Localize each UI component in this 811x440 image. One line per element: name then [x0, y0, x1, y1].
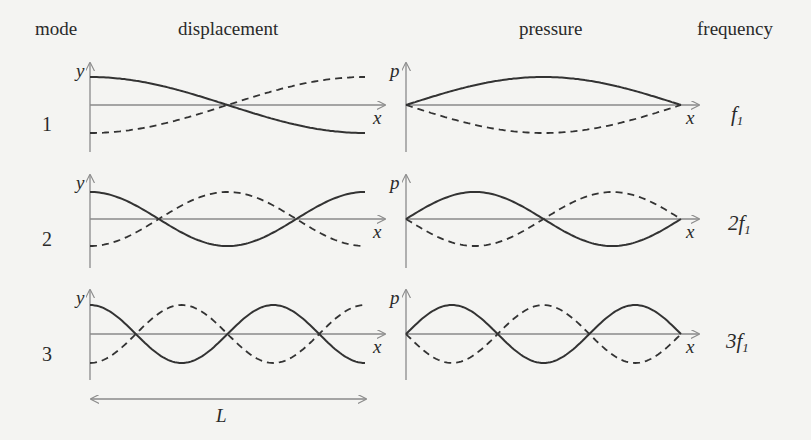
wave-curves [90, 77, 681, 363]
axes [90, 63, 699, 399]
pressure-dashed-mode-1 [406, 105, 681, 133]
standing-wave-diagram [0, 0, 811, 440]
pressure-solid-mode-1 [406, 77, 681, 105]
